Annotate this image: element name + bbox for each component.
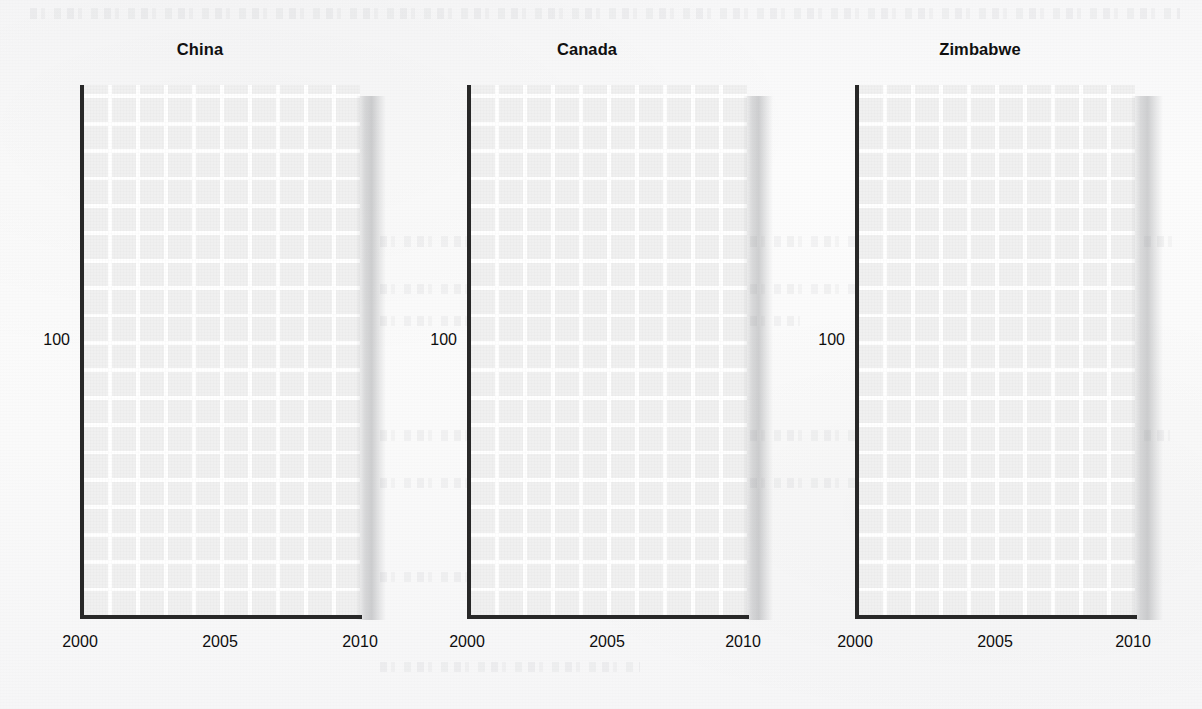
x-axis-line-zimbabwe bbox=[855, 615, 1137, 619]
x-tick-label-canada-2000: 2000 bbox=[429, 633, 505, 651]
y-tick-label-canada: 100 bbox=[397, 331, 457, 349]
x-axis-line-china bbox=[80, 615, 362, 619]
facet-panel-zimbabwe: Zimbabwe 100 2000 2005 2010 bbox=[775, 0, 1185, 709]
scan-gutter-shadow bbox=[743, 96, 773, 620]
x-tick-label-china-2005: 2005 bbox=[182, 633, 258, 651]
x-tick-label-china-2000: 2000 bbox=[42, 633, 118, 651]
facet-title-zimbabwe: Zimbabwe bbox=[775, 40, 1185, 59]
x-tick-label-canada-2005: 2005 bbox=[569, 633, 645, 651]
y-axis-line-zimbabwe bbox=[855, 85, 859, 619]
y-tick-label-zimbabwe: 100 bbox=[785, 331, 845, 349]
y-axis-line-canada bbox=[467, 85, 471, 619]
y-axis-line-china bbox=[80, 85, 84, 619]
plot-area-china bbox=[84, 85, 360, 615]
x-axis-line-canada bbox=[467, 615, 749, 619]
scanned-figure-page: China 100 2000 2005 2010 Canada 100 2000… bbox=[0, 0, 1202, 709]
y-tick-label-china: 100 bbox=[10, 331, 70, 349]
scan-gutter-shadow bbox=[1131, 96, 1163, 620]
facet-title-china: China bbox=[0, 40, 400, 59]
x-tick-label-zimbabwe-2000: 2000 bbox=[817, 633, 893, 651]
x-tick-label-canada-2010: 2010 bbox=[705, 633, 781, 651]
facet-panel-canada: Canada 100 2000 2005 2010 bbox=[387, 0, 787, 709]
facet-title-canada: Canada bbox=[387, 40, 787, 59]
x-tick-label-zimbabwe-2010: 2010 bbox=[1095, 633, 1171, 651]
x-tick-label-zimbabwe-2005: 2005 bbox=[957, 633, 1033, 651]
scan-gutter-shadow bbox=[356, 96, 386, 620]
facet-panel-china: China 100 2000 2005 2010 bbox=[0, 0, 400, 709]
plot-area-zimbabwe bbox=[859, 85, 1135, 615]
plot-area-canada bbox=[471, 85, 747, 615]
